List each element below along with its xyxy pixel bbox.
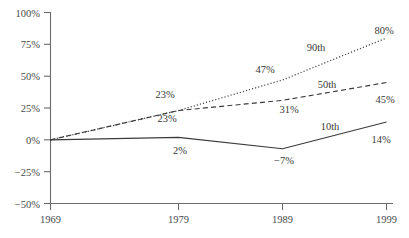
percentile-change-line-chart: 100% 75% 50% 25% 0% −25% −50% 1969 1979 … (0, 0, 409, 238)
y-tick-label-neg25: −25% (15, 167, 40, 178)
x-tick-label-1989: 1989 (272, 214, 293, 225)
y-tick-label-neg50: −50% (15, 199, 40, 210)
y-tick-label-0: 0% (26, 135, 40, 146)
x-tick-label-1979: 1979 (168, 214, 189, 225)
series-label-90th: 90th (307, 42, 326, 53)
point-label-50th-1989: 31% (279, 104, 299, 115)
y-tick-label-100: 100% (16, 8, 41, 19)
point-label-50th-1999: 45% (375, 94, 395, 105)
y-tick-label-25: 25% (21, 103, 41, 114)
y-tick-label-50: 50% (21, 71, 41, 82)
series-label-10th: 10th (321, 121, 340, 132)
y-tick-label-75: 75% (21, 39, 41, 50)
chart-canvas: 100% 75% 50% 25% 0% −25% −50% 1969 1979 … (0, 0, 409, 238)
point-label-50th-1979: 23% (157, 113, 177, 124)
point-label-90th-1999: 80% (374, 25, 394, 36)
point-label-10th-1999: 14% (371, 134, 391, 145)
series-label-50th: 50th (318, 79, 337, 90)
point-label-10th-1989: −7% (274, 155, 294, 166)
x-tick-label-1969: 1969 (40, 214, 61, 225)
x-tick-label-1999: 1999 (376, 214, 397, 225)
point-label-90th-1979: 23% (155, 89, 175, 100)
point-label-90th-1989: 47% (255, 64, 275, 75)
point-label-10th-1979: 2% (173, 145, 187, 156)
